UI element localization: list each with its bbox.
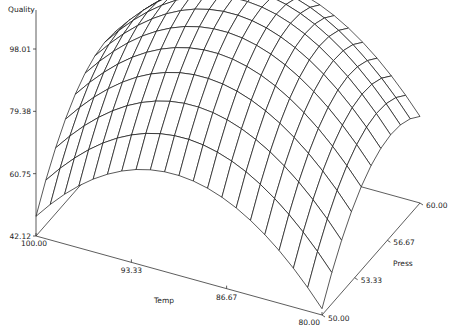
y-tick-label: 50.00 (328, 314, 350, 323)
z-tick-label: 98.01 (10, 45, 32, 54)
z-axis-title: Quality (8, 5, 35, 14)
y-tick (355, 278, 358, 280)
y-tick (387, 240, 390, 242)
y-tick-label: 60.00 (426, 201, 448, 210)
x-tick-label: 86.67 (216, 293, 238, 302)
z-tick-label: 79.38 (10, 107, 32, 116)
y-tick-label: 56.67 (393, 238, 415, 247)
y-tick (420, 203, 423, 205)
surface-chart: Quality Temp Press 42.1260.7579.3898.01 … (0, 0, 449, 326)
y-tick (322, 315, 325, 317)
x-tick-label: 80.00 (299, 318, 321, 326)
surface-mesh (36, 0, 420, 309)
z-tick-labels: 42.1260.7579.3898.01 (10, 45, 32, 241)
x-axis-title: Temp (153, 296, 174, 305)
x-tick-label: 100.00 (21, 239, 47, 248)
x-tick-label: 93.33 (121, 266, 143, 275)
z-tick-label: 60.75 (10, 170, 32, 179)
y-tick-label: 53.33 (361, 276, 383, 285)
y-axis-title: Press (393, 259, 413, 268)
x-tick-labels: 100.0093.3386.6780.00 (21, 239, 320, 326)
